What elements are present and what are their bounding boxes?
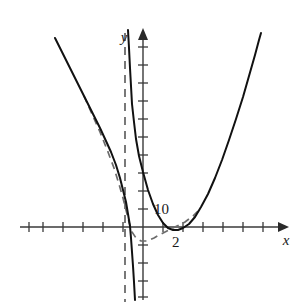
x-axis-label: x: [282, 232, 290, 248]
y-axis-arrowhead: [138, 28, 148, 40]
solid-curve-left-branch: [55, 38, 135, 300]
x-axis-arrowhead: [278, 222, 289, 232]
y-axis: [138, 28, 148, 300]
x-tick-label-2: 2: [172, 234, 180, 250]
solid-curve-right-branch: [128, 30, 261, 230]
y-tick-label-10: 10: [154, 201, 169, 217]
graph-figure: y x 10 2: [0, 0, 298, 306]
y-axis-label: y: [119, 29, 128, 45]
x-axis: [20, 222, 289, 232]
